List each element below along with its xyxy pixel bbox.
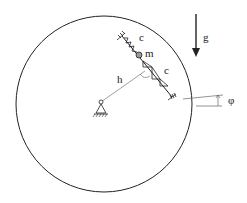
label-spring-lower: c xyxy=(164,64,169,76)
label-spring-upper: c xyxy=(139,31,144,43)
gravity-arrow-icon xyxy=(192,14,200,57)
right-angle-mark xyxy=(140,74,150,78)
label-mass: m xyxy=(145,47,154,59)
lever-h xyxy=(101,71,145,102)
mass-m xyxy=(136,52,142,58)
pivot-support-icon xyxy=(93,100,108,117)
angle-phi-marker xyxy=(183,95,223,106)
label-gravity: g xyxy=(203,31,209,43)
diagram-canvas: g c m c h φ xyxy=(0,0,247,203)
label-angle-phi: φ xyxy=(228,94,234,106)
label-lever-h: h xyxy=(117,73,123,85)
disk-outline xyxy=(16,16,192,192)
